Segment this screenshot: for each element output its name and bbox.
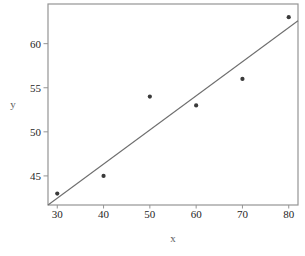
x-axis-label: x <box>170 232 176 244</box>
data-point <box>194 103 198 107</box>
fit-line <box>48 21 298 205</box>
data-point <box>148 94 152 98</box>
plot-frame <box>48 4 298 205</box>
data-point <box>101 174 105 178</box>
scatter-plot: 30405060708045505560yx <box>0 0 305 256</box>
data-point <box>287 15 291 19</box>
x-tick-label: 80 <box>283 208 295 220</box>
data-point <box>240 77 244 81</box>
y-axis-label: y <box>10 98 16 110</box>
x-tick-label: 30 <box>52 208 64 220</box>
x-tick-label: 40 <box>98 208 110 220</box>
data-point <box>55 191 59 195</box>
y-tick-label: 45 <box>30 170 42 182</box>
x-tick-label: 60 <box>191 208 203 220</box>
y-tick-label: 50 <box>30 126 42 138</box>
scatter-plot-figure: 30405060708045505560yx <box>0 0 305 256</box>
x-tick-label: 50 <box>144 208 156 220</box>
y-tick-label: 55 <box>30 82 42 94</box>
x-tick-label: 70 <box>237 208 249 220</box>
y-tick-label: 60 <box>30 38 42 50</box>
